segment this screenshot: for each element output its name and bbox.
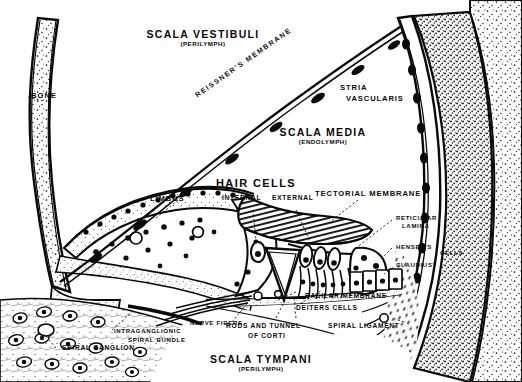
label-hair-cells: HAIR CELLS [216,178,296,190]
scala-vestibuli-title: SCALA VESTIBULI [126,29,280,40]
scala-vestibuli-subtitle: (PERILYMPH) [126,41,280,48]
label-reticular-lamina-line1: RETICULAR [396,215,437,221]
label-claudius: CLAUDIUS' [396,262,435,268]
label-rods-tunnel-line2: OF CORTI [248,332,286,339]
label-spiral-ligament: SPIRAL LIGAMENT [328,322,400,329]
label-scala-media: SCALA MEDIA (ENDOLYMPH) [258,127,388,146]
label-reticular-lamina-line2: LAMINA [402,223,430,229]
label-intraganglionic-line2: SPIRAL BUNDLE [128,337,186,343]
label-rods-tunnel-line1: RODS AND TUNNEL [226,322,301,329]
cochlea-diagram: SCALA VESTIBULI (PERILYMPH) SCALA MEDIA … [0,0,522,382]
label-stria-vascularis-line2: VASCULARIS [346,95,404,103]
label-intraganglionic-line1: INTRAGANGLIONIC [114,328,181,334]
label-spiral-ganglion: SPIRAL GANGLION [62,344,135,351]
label-hensens: HENSEN'S [396,244,432,250]
label-deiters-cells: DEITERS CELLS [296,304,358,311]
label-tectorial-membrane: TECTORIAL MEMBRANE [315,190,421,198]
label-hair-cells-internal: INTERNAL [222,194,261,201]
label-hensens-cells: CELLS [440,250,463,256]
label-limbus: LIMBUS [150,195,185,203]
scala-tympani-subtitle: (PERILYMPH) [186,366,336,373]
scala-media-title: SCALA MEDIA [258,127,388,138]
label-scala-tympani: SCALA TYMPANI (PERILYMPH) [186,354,336,373]
label-scala-vestibuli: SCALA VESTIBULI (PERILYMPH) [126,29,280,48]
label-bone: BONE [31,92,57,100]
scala-tympani-title: SCALA TYMPANI [186,354,336,365]
label-stria-vascularis-line1: STRIA [340,84,367,92]
label-basilar-membrane: BASILAR MEMBRANE [305,292,387,299]
scala-media-subtitle: (ENDOLYMPH) [258,139,388,146]
label-hair-cells-external: EXTERNAL [272,194,314,201]
